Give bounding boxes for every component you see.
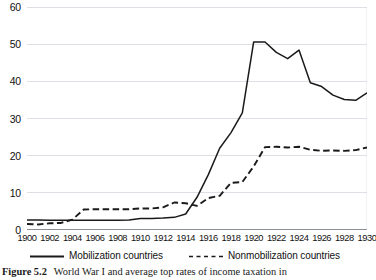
legend-label: Mobilization countries — [69, 251, 163, 261]
x-tick-label: 1910 — [131, 233, 150, 244]
legend-label: Nonmobilization countries — [228, 251, 340, 261]
x-tick-label: 1922 — [267, 233, 286, 244]
x-axis: 1900190219041906190819101912191419161918… — [27, 233, 367, 247]
dashed-line-icon — [189, 252, 223, 261]
x-tick-label: 1904 — [63, 233, 82, 244]
y-tick-label: 30 — [10, 114, 21, 125]
x-tick-label: 1928 — [335, 233, 354, 244]
legend-entry[interactable]: Mobilization countries — [30, 251, 163, 261]
figure-number: Figure 5.2 — [2, 266, 47, 277]
legend-entry[interactable]: Nonmobilization countries — [189, 251, 340, 261]
x-tick-label: 1920 — [244, 233, 263, 244]
x-tick-label: 1906 — [86, 233, 105, 244]
x-tick-label: 1924 — [290, 233, 309, 244]
x-tick-label: 1914 — [176, 233, 195, 244]
x-tick-label: 1930 — [358, 233, 376, 244]
x-tick-label: 1902 — [40, 233, 59, 244]
solid-line-icon — [30, 252, 64, 261]
figure-caption-text: World War I and average top rates of inc… — [54, 266, 287, 277]
x-tick-label: 1912 — [154, 233, 173, 244]
chart-legend: Mobilization countriesNonmobilization co… — [0, 249, 370, 263]
y-tick-label: 10 — [10, 188, 21, 199]
x-tick-label: 1926 — [312, 233, 331, 244]
data-series-layer — [27, 7, 367, 230]
y-tick-label: 60 — [10, 2, 21, 13]
series-line-1 — [27, 42, 367, 220]
x-tick-label: 1916 — [199, 233, 218, 244]
x-tick-label: 1918 — [222, 233, 241, 244]
y-tick-label: 50 — [10, 39, 21, 50]
y-tick-label: 20 — [10, 151, 21, 162]
x-tick-label: 1908 — [108, 233, 127, 244]
x-tick-label: 1900 — [18, 233, 37, 244]
y-axis: 0102030405060 — [0, 0, 24, 237]
figure-caption: Figure 5.2World War I and average top ra… — [2, 266, 368, 278]
plot-area — [27, 7, 367, 230]
series-line-2 — [27, 147, 367, 225]
y-tick-label: 40 — [10, 76, 21, 87]
